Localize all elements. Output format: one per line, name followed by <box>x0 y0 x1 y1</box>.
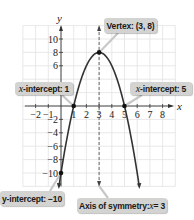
vertex-point <box>97 50 102 55</box>
x-tick-label: 2 <box>84 109 89 120</box>
y-tick-label: −2 <box>47 114 58 125</box>
y-tick-label: 8 <box>53 47 58 58</box>
x-axis-arrow-icon <box>168 104 174 108</box>
y-axis-label: y <box>56 12 62 24</box>
y-intercept-point <box>59 171 64 176</box>
y-tick-label: 6 <box>53 60 58 71</box>
leader-line <box>125 95 143 106</box>
x-tick-label: 4 <box>109 109 114 120</box>
axis-of-symmetry-text: Axis of symmetry: <box>79 201 149 211</box>
x-tick-label: 8 <box>160 109 165 120</box>
vertex-callout-text: Vertex: (3, 8) <box>107 21 155 31</box>
x-tick-label: 6 <box>135 109 140 120</box>
axis-of-symmetry-callout: Axis of symmetry: x = 3 <box>77 198 167 213</box>
x-intercept-5-point <box>122 104 127 109</box>
x-intercept-5-text: -intercept: 5 <box>140 84 186 94</box>
x-intercept-1-callout: x-intercept: 1 <box>15 82 73 95</box>
leader-line <box>62 95 74 106</box>
x-tick-label: 7 <box>147 109 152 120</box>
x-intercept-1-point <box>71 104 76 109</box>
x-tick-label: −2 <box>30 109 41 120</box>
x-axis-label: x <box>176 100 182 112</box>
y-tick-label: −6 <box>47 141 58 152</box>
leader-line <box>99 33 118 52</box>
y-intercept-callout: y-intercept: −10 <box>0 191 64 206</box>
graph: −2−1123456781086−2−4−6−8−10 y x <box>0 0 194 220</box>
leader-line <box>99 186 108 198</box>
vertex-callout: Vertex: (3, 8) <box>104 18 157 33</box>
x-intercept-1-text: -intercept: 1 <box>23 84 69 94</box>
y-tick-label: −10 <box>42 168 58 179</box>
y-tick-label: −4 <box>47 127 58 138</box>
y-intercept-text: y-intercept: −10 <box>2 194 62 204</box>
y-tick-label: 10 <box>48 34 58 45</box>
x-intercept-5-callout: x-intercept: 5 <box>130 82 192 95</box>
y-tick-label: −8 <box>47 154 58 165</box>
key-points <box>59 50 127 175</box>
axis-of-symmetry-eq: = 3 <box>154 201 165 211</box>
